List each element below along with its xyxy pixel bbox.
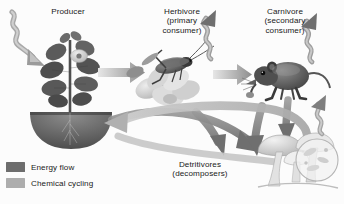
legend-item-chemical-cycling: Chemical cycling — [6, 176, 126, 190]
label-herbivore: Herbivore (primary consumer) — [142, 7, 222, 35]
label-producer: Producer — [30, 7, 106, 16]
legend-item-label: Energy flow — [31, 163, 74, 172]
sunlight-energy-arrow-icon — [12, 12, 45, 66]
magnifier-circle-icon — [296, 139, 338, 181]
arrow-herbivore-to-carnivore — [213, 64, 252, 85]
heat-loss-arrow-detritivores-icon — [311, 95, 326, 134]
leafy-plant-icon — [38, 29, 101, 112]
legend-item-label: Chemical cycling — [31, 179, 93, 188]
label-carnivore: Carnivore (secondary consumer) — [244, 7, 326, 35]
legend: Energy flow Chemical cycling — [6, 160, 126, 192]
ecosystem-energy-flow-figure: Producer Herbivore (primary consumer) Ca… — [0, 0, 344, 204]
square-swatch-icon — [6, 178, 25, 188]
grasshopper-icon — [125, 38, 214, 109]
mouse-icon — [241, 62, 330, 101]
soil-mound-icon — [30, 112, 112, 149]
label-detritivores: Detritivores (decomposers) — [150, 160, 250, 179]
square-swatch-icon — [6, 162, 25, 172]
legend-item-energy-flow: Energy flow — [6, 160, 126, 174]
